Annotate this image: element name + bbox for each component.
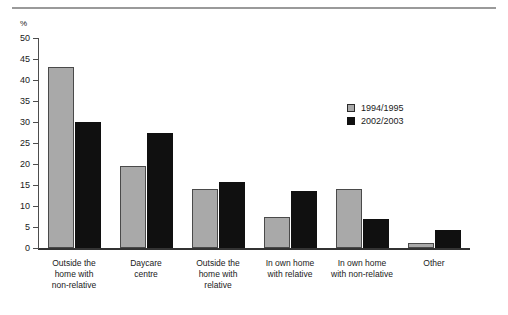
legend-label: 1994/1995 [361,103,404,113]
legend-item: 1994/1995 [347,101,404,114]
legend-swatch-icon [347,104,355,112]
category-label-line: with non-relative [319,269,405,280]
bar-series-a [192,189,218,248]
bar-series-a [264,217,290,249]
bar-series-b [75,122,101,248]
x-axis-category-label: Other [391,258,477,269]
legend-item: 2002/2003 [347,114,404,127]
chart-plot-area: % 05101520253035404550 Outside thehome w… [0,0,508,315]
category-label-line: relative [175,280,261,291]
bar-series-b [291,191,317,248]
bar-series-b [147,133,173,249]
chart-legend: 1994/19952002/2003 [347,101,404,127]
bar-series-a [408,243,434,248]
legend-label: 2002/2003 [361,116,404,126]
legend-swatch-icon [347,117,355,125]
category-label-line: non-relative [31,280,117,291]
bar-series-a [120,166,146,248]
bar-series-b [435,230,461,248]
bar-series-a [48,67,74,248]
bar-series-b [363,219,389,248]
bar-series-a [336,189,362,248]
category-label-line: Other [391,258,477,269]
bar-series-b [219,182,245,248]
